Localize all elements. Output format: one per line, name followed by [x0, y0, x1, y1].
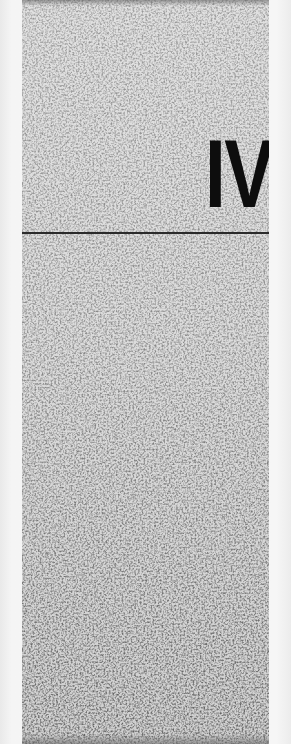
- bottom-edge-shadow: [22, 734, 269, 744]
- top-edge-shadow: [22, 0, 269, 6]
- book-page: IV: [0, 0, 291, 744]
- granite-texture-panel: IV: [22, 0, 269, 744]
- speckle-texture: [22, 0, 269, 744]
- horizontal-rule: [22, 232, 269, 234]
- part-numeral: IV: [205, 126, 269, 222]
